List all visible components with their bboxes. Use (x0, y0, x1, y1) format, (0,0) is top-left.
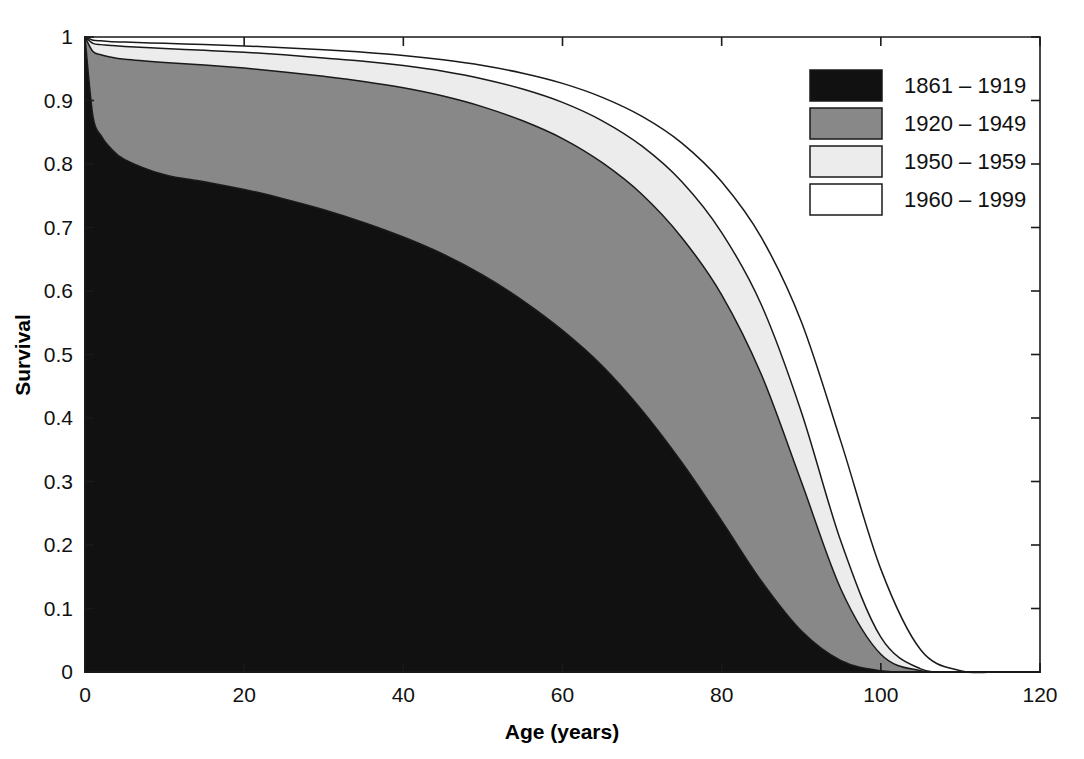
y-tick-label: 0.7 (44, 216, 73, 239)
legend-swatch (810, 184, 882, 215)
legend-label: 1960 – 1999 (904, 187, 1026, 212)
x-tick-label: 40 (392, 683, 415, 706)
x-tick-label: 80 (710, 683, 733, 706)
y-tick-label: 0.4 (44, 406, 74, 429)
y-tick-label: 0.9 (44, 89, 73, 112)
x-tick-label: 100 (863, 683, 898, 706)
x-axis-title: Age (years) (505, 720, 619, 743)
chart-canvas: 020406080100120 00.10.20.30.40.50.60.70.… (0, 0, 1084, 759)
survival-chart-figure: 020406080100120 00.10.20.30.40.50.60.70.… (0, 0, 1084, 759)
y-tick-label: 0.8 (44, 152, 73, 175)
plot-areas (85, 37, 1040, 673)
legend-swatch (810, 108, 882, 139)
legend-label: 1861 – 1919 (904, 73, 1026, 98)
chart-legend: 1861 – 19191920 – 19491950 – 19591960 – … (810, 70, 1026, 215)
legend-label: 1920 – 1949 (904, 111, 1026, 136)
legend-label: 1950 – 1959 (904, 149, 1026, 174)
y-tick-label: 0.5 (44, 343, 73, 366)
x-tick-label: 0 (79, 683, 91, 706)
legend-swatch (810, 146, 882, 177)
x-tick-label: 120 (1022, 683, 1057, 706)
y-axis-tick-labels: 00.10.20.30.40.50.60.70.80.91 (44, 25, 74, 683)
y-tick-label: 0.2 (44, 533, 73, 556)
y-axis-title: Survival (11, 314, 34, 396)
y-tick-label: 0.3 (44, 470, 73, 493)
y-tick-label: 0 (61, 660, 73, 683)
legend-swatch (810, 70, 882, 101)
y-tick-label: 0.1 (44, 597, 73, 620)
x-axis-tick-labels: 020406080100120 (79, 683, 1057, 706)
y-tick-label: 1 (61, 25, 73, 48)
y-tick-label: 0.6 (44, 279, 73, 302)
x-tick-label: 60 (551, 683, 574, 706)
x-tick-label: 20 (232, 683, 255, 706)
